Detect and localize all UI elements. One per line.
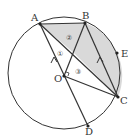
point-o — [62, 74, 65, 77]
label-e: E — [121, 48, 128, 59]
point-a — [38, 22, 41, 25]
label-a: A — [30, 12, 39, 23]
region-label-3: ③ — [75, 68, 81, 76]
label-d: D — [85, 126, 93, 135]
region-label-1: ① — [57, 50, 63, 58]
angle-mark-o — [66, 72, 69, 76]
label-o: O — [54, 73, 62, 84]
label-c: C — [120, 95, 128, 106]
point-b — [83, 21, 86, 24]
label-b: B — [82, 10, 89, 21]
geometry-diagram: A B C D E O ① ② ③ — [0, 0, 129, 135]
region-label-2: ② — [66, 34, 72, 42]
point-e — [115, 51, 118, 54]
